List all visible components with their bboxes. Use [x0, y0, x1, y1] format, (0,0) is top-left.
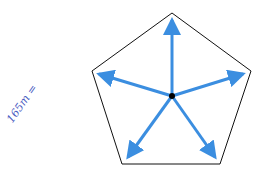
- center-point: [169, 93, 175, 99]
- arrow-bottom-right: [172, 96, 215, 157]
- arrow-left: [99, 74, 172, 96]
- diagram-canvas: 165m =: [0, 0, 256, 175]
- radius-arrows: [99, 20, 243, 157]
- arrow-bottom-left: [128, 96, 172, 157]
- arrow-right: [172, 74, 243, 96]
